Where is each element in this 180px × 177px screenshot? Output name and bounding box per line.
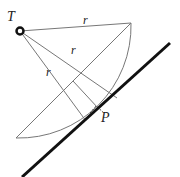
geometry-diagram: T r r r P (0, 0, 180, 177)
label-r-top: r (83, 13, 88, 27)
label-P: P (100, 110, 110, 125)
radius-to-P (20, 31, 86, 121)
point-T-marker (17, 28, 24, 35)
label-r-middle: r (71, 43, 76, 57)
radius-middle (20, 31, 117, 98)
radius-lower (16, 31, 20, 138)
label-T: T (7, 9, 16, 24)
perpendicular (73, 81, 98, 108)
diagram-canvas: T r r r P (0, 0, 180, 177)
label-r-lower: r (46, 65, 51, 79)
radius-top (20, 23, 131, 31)
